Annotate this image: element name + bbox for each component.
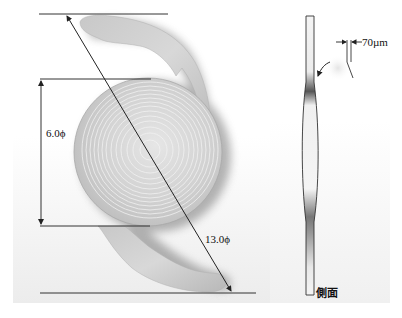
optic-diameter-label: 6.0ϕ: [46, 127, 66, 139]
thickness-label: 70µm: [362, 36, 388, 48]
side-view-label: 側面: [315, 286, 338, 299]
overall-diameter-label: 13.0ϕ: [205, 233, 230, 245]
iol-diagram: 6.0ϕ 13.0ϕ 70µm 側面: [0, 0, 402, 318]
